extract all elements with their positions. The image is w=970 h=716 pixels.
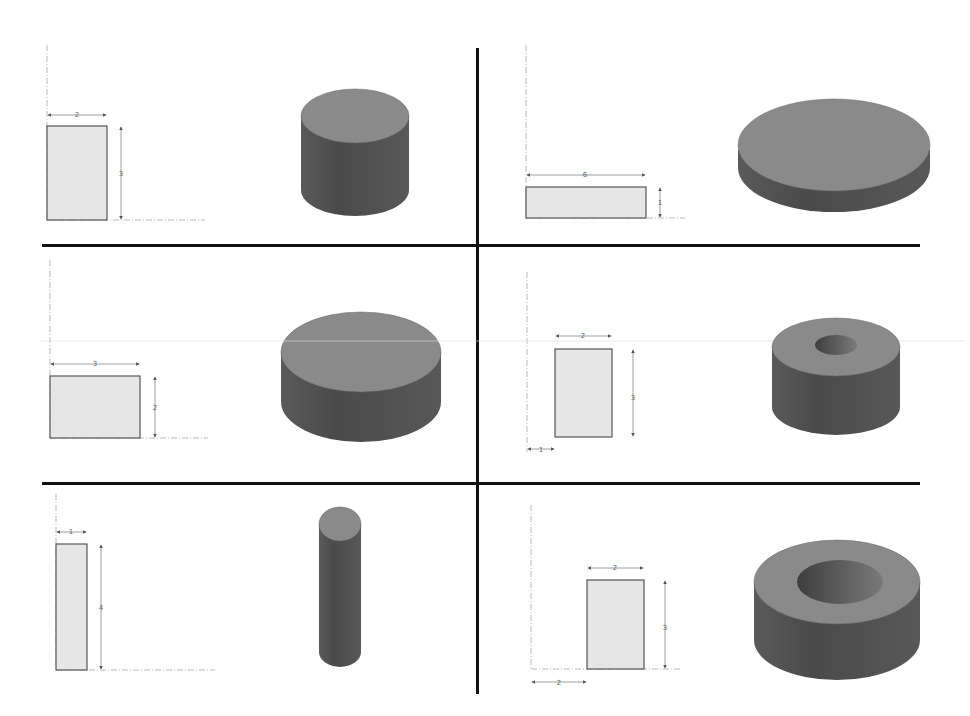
profile-sketch: 6 1: [526, 45, 685, 218]
offset-label: 2: [557, 679, 561, 687]
panel-bottom-right: 2 3 2: [531, 505, 920, 687]
height-label: 1: [658, 199, 662, 207]
profile-sketch: 3 2: [50, 260, 208, 438]
bore-hole: [815, 335, 857, 355]
panel-middle-left: 3 2: [50, 260, 441, 442]
figure-canvas: 2 3 6 1: [0, 0, 970, 716]
width-label: 2: [613, 564, 617, 572]
revolve-figure: 2 3 6 1: [0, 0, 970, 716]
height-label: 2: [153, 404, 157, 412]
panel-top-left: 2 3: [47, 45, 409, 220]
width-label: 2: [581, 332, 585, 340]
width-label: 3: [93, 360, 97, 368]
bore-hole: [797, 560, 883, 604]
panel-bottom-left: 1 4: [56, 494, 361, 670]
profile-sketch: 2 3: [47, 45, 205, 220]
profile-rect: [50, 376, 140, 438]
solid-cylinder: [301, 89, 409, 216]
panel-top-right: 6 1: [526, 45, 930, 218]
profile-rect: [587, 580, 644, 669]
solid-tall-cylinder: [319, 507, 361, 667]
offset-label: 1: [539, 446, 543, 454]
width-label: 2: [75, 111, 79, 119]
height-label: 3: [119, 170, 123, 178]
profile-rect: [555, 349, 612, 437]
solid-tube: [772, 318, 900, 435]
height-label: 3: [663, 624, 667, 632]
profile-sketch: 2 3 2: [531, 505, 680, 687]
height-label: 3: [631, 394, 635, 402]
profile-rect: [56, 544, 87, 670]
panel-middle-right: 2 3 1: [40, 272, 965, 454]
width-label: 1: [69, 528, 73, 536]
solid-disk: [738, 99, 930, 212]
height-label: 4: [99, 604, 104, 612]
solid-ring: [754, 540, 920, 680]
profile-rect: [526, 187, 646, 218]
width-label: 6: [583, 171, 588, 179]
profile-sketch: 1 4: [56, 494, 215, 670]
profile-rect: [47, 126, 107, 220]
solid-short-cylinder: [281, 312, 441, 442]
